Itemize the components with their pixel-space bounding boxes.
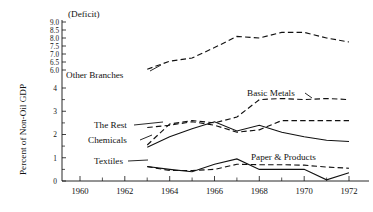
x-ticks (80, 176, 349, 181)
leader-basic-metals (305, 93, 312, 98)
series-path-chemicals (147, 122, 349, 148)
y-tick-label-8-5: 8.5 (50, 27, 59, 35)
y-tick-label-6-0: 6.0 (50, 67, 59, 75)
y-tick-label-3: 3 (53, 107, 57, 116)
y-axis-title: Percent of Non-Oil GDP (18, 84, 28, 175)
y-tick-label-8-0: 8.0 (50, 35, 59, 43)
annotation-leaders (128, 65, 312, 161)
series-label-paper-products: Paper & Products (251, 152, 316, 162)
leader-chemicals (140, 135, 152, 140)
x-tick-label-1970: 1970 (296, 186, 313, 196)
series-layer (147, 32, 349, 179)
x-tick-label-1966: 1966 (206, 186, 224, 196)
series-label-textiles: Textiles (94, 156, 123, 166)
x-tick-label-1962: 1962 (116, 186, 133, 196)
y-tick-label-7-5: 7.5 (50, 43, 59, 51)
x-tick-label-1968: 1968 (251, 186, 268, 196)
y-tick-label-0: 0 (53, 177, 57, 186)
y-tick-label-9-0: 9.0 (50, 19, 59, 27)
x-tick-label-1972: 1972 (340, 186, 357, 196)
series-label-other-branches: Other Branches (66, 70, 124, 80)
series-path-basic-metals (147, 98, 349, 145)
series-annotations: Other Branches Basic Metals The Rest Che… (66, 70, 316, 166)
series-path-other-branches (147, 32, 349, 69)
series-label-the-rest: The Rest (94, 120, 127, 130)
x-tick-labels: 1960 1962 1964 1966 1968 1970 1972 (71, 186, 357, 196)
series-path-textiles (147, 159, 349, 180)
line-chart: Percent of Non-Oil GDP (Deficit) 9.0 8.5… (0, 0, 373, 212)
y-tick-label-1: 1 (53, 154, 57, 163)
series-label-basic-metals: Basic Metals (247, 88, 295, 98)
leader-the-rest (134, 122, 163, 125)
y-tick-label-6-5: 6.5 (50, 59, 59, 67)
y-tick-label-7-0: 7.0 (50, 51, 59, 59)
x-tick-label-1960: 1960 (71, 186, 88, 196)
series-path-paper-products (147, 164, 349, 170)
y-tick-labels-lower: 4 3 2 1 0 (53, 84, 57, 186)
y-tick-label-4: 4 (53, 84, 57, 93)
chart-container: Percent of Non-Oil GDP (Deficit) 9.0 8.5… (0, 0, 373, 212)
y-tick-label-2: 2 (53, 130, 57, 139)
x-tick-label-1964: 1964 (161, 186, 179, 196)
y-ticks-lower (62, 88, 66, 181)
leader-textiles (128, 160, 148, 161)
y-tick-labels-upper: 9.0 8.5 8.0 7.5 7.0 6.5 6.0 (50, 19, 59, 75)
deficit-annotation: (Deficit) (68, 9, 100, 19)
y-ticks-upper (62, 22, 66, 70)
series-label-chemicals: Chemicals (88, 135, 127, 145)
